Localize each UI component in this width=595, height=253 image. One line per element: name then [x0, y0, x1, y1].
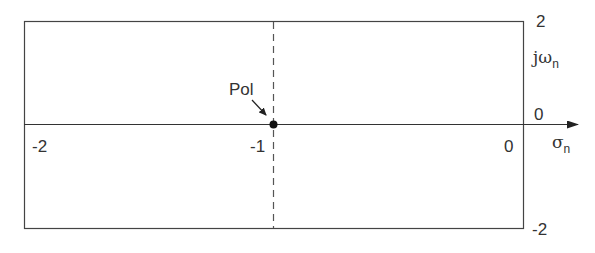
- real-axis-label: σn: [552, 132, 570, 156]
- x-tick-minus-2: -2: [32, 137, 47, 156]
- pole-marker: [270, 121, 278, 129]
- y-tick-2: 2: [536, 12, 545, 31]
- y-tick-0: 0: [534, 105, 543, 124]
- x-tick-minus-1: -1: [250, 137, 265, 156]
- y-tick-minus-2: -2: [532, 220, 547, 239]
- pole-label: Pol: [229, 80, 254, 99]
- pole-label-arrow: [252, 100, 266, 115]
- x-tick-0: 0: [504, 137, 513, 156]
- imag-axis-label: jωn: [531, 47, 559, 71]
- pole-plot: Pol -2 -1 0 2 0 -2 jωn σn: [0, 0, 595, 253]
